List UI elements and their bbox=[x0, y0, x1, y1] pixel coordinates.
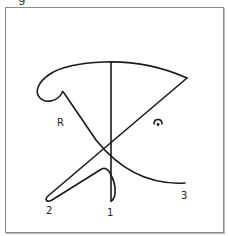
fermata-icon bbox=[154, 120, 162, 126]
label-2: 2 bbox=[46, 205, 52, 216]
stroke-diagram: R 1 2 3 bbox=[0, 0, 228, 236]
label-r: R bbox=[57, 117, 64, 128]
label-1: 1 bbox=[107, 207, 113, 218]
label-3: 3 bbox=[181, 190, 187, 201]
